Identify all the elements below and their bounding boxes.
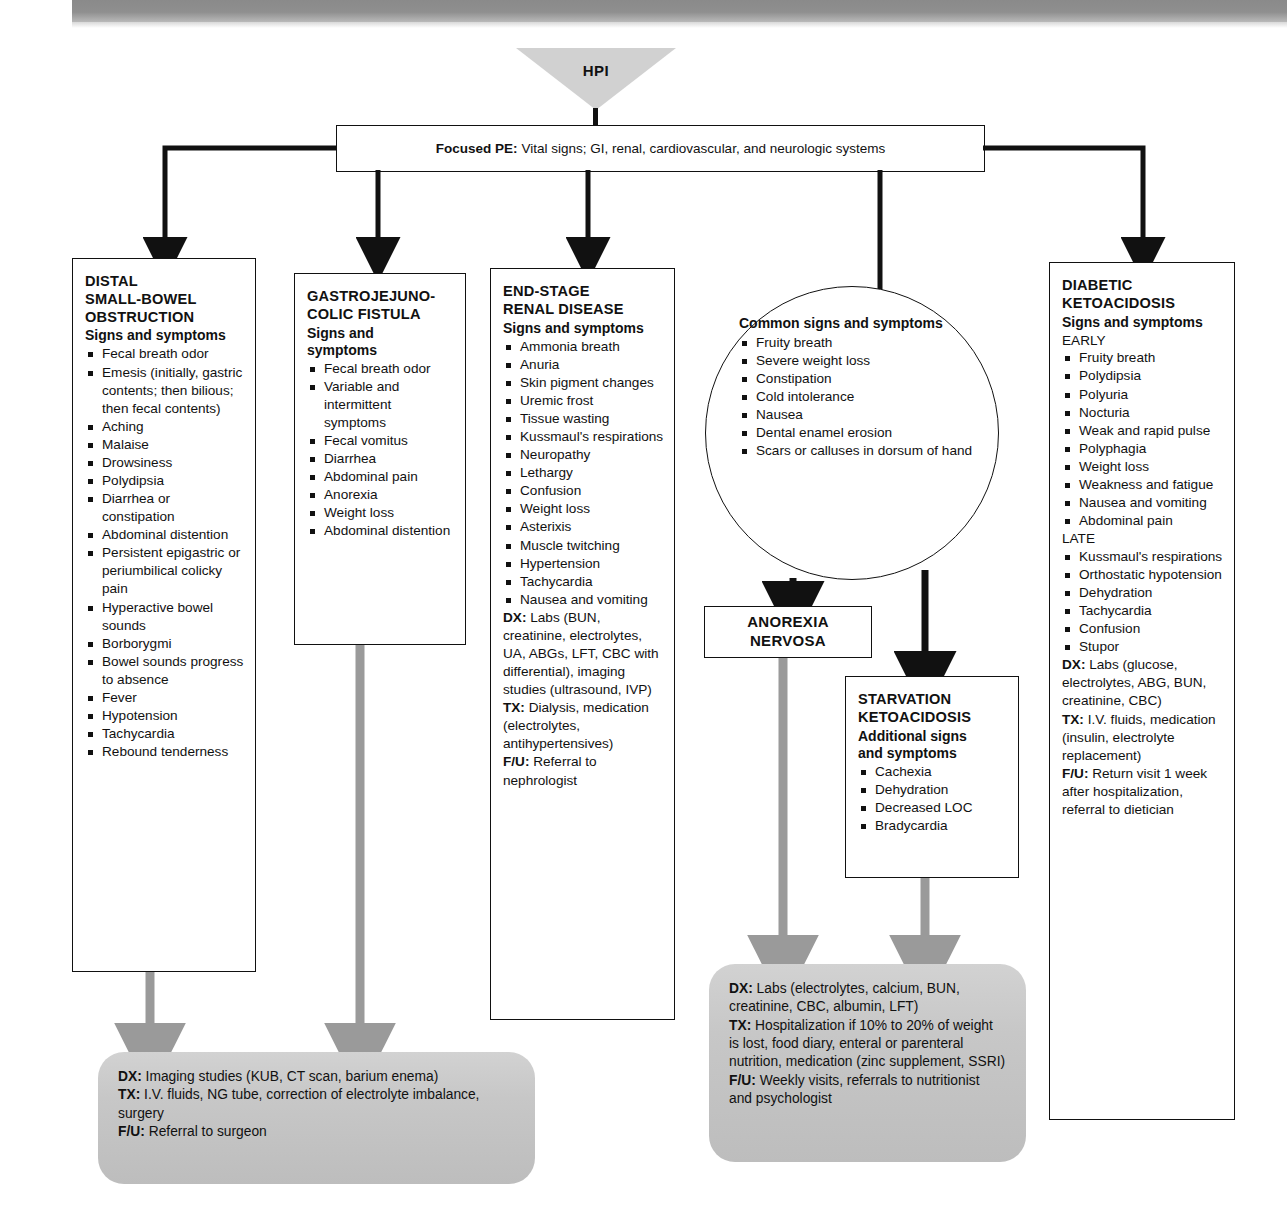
list-item: Abdominal pain	[307, 468, 455, 486]
list-item: Skin pigment changes	[503, 374, 664, 392]
list-item: Lethargy	[503, 464, 664, 482]
fu-label: F/U:	[503, 754, 529, 769]
list-item: Nocturia	[1062, 404, 1224, 422]
tx-line: TX: I.V. fluids, medication (insulin, el…	[1062, 711, 1224, 765]
tx-label: TX:	[118, 1087, 140, 1102]
list-item: Cold intolerance	[739, 388, 989, 406]
tx-text: I.V. fluids, NG tube, correction of elec…	[118, 1087, 479, 1120]
list-item: Variable and intermittent symptoms	[307, 378, 455, 432]
list-item: Fruity breath	[1062, 349, 1224, 367]
tx-label: TX:	[1062, 712, 1084, 727]
late-label: LATE	[1062, 530, 1224, 548]
box-anorexia-nervosa: ANOREXIA NERVOSA	[704, 606, 872, 658]
list-item: Muscle twitching	[503, 537, 664, 555]
list-item: Kussmaul's respirations	[1062, 548, 1224, 566]
funnel-triangle-icon	[516, 48, 676, 110]
fu-label: F/U:	[118, 1124, 145, 1139]
box-title: DIABETIC KETOACIDOSIS	[1062, 277, 1224, 313]
list-item: Weight loss	[307, 504, 455, 522]
list-item: Diarrhea or constipation	[85, 490, 245, 526]
dx-label: DX:	[729, 981, 753, 996]
list-item: Weak and rapid pulse	[1062, 422, 1224, 440]
list-item: Polydipsia	[1062, 367, 1224, 385]
list-item: Hypertension	[503, 555, 664, 573]
list-item: Tachycardia	[85, 725, 245, 743]
list-item: Polydipsia	[85, 472, 245, 490]
box-title: GASTROJEJUNO- COLIC FISTULA	[307, 288, 455, 324]
box-title: END-STAGE RENAL DISEASE	[503, 283, 664, 319]
list-item: Confusion	[1062, 620, 1224, 638]
symptom-list: Fruity breath Severe weight loss Constip…	[739, 334, 989, 461]
symptom-list: Fecal breath odor Emesis (initially, gas…	[85, 345, 245, 761]
list-item: Abdominal pain	[1062, 512, 1224, 530]
list-item: Fecal vomitus	[307, 432, 455, 450]
dx-label: DX:	[118, 1069, 142, 1084]
flowchart-page: HPI Focused PE: Vital signs; GI, renal, …	[0, 0, 1287, 1227]
list-item: Drowsiness	[85, 454, 245, 472]
box-gastrojejunocolic-fistula: GASTROJEJUNO- COLIC FISTULA Signs and sy…	[294, 273, 466, 645]
list-item: Weakness and fatigue	[1062, 476, 1224, 494]
list-item: Nausea	[739, 406, 989, 424]
list-item: Weight loss	[1062, 458, 1224, 476]
list-item: Nausea and vomiting	[503, 591, 664, 609]
box-title: STARVATION KETOACIDOSIS	[858, 691, 1008, 727]
list-item: Constipation	[739, 370, 989, 388]
fu-line: F/U: Referral to surgeon	[118, 1123, 515, 1141]
symptom-list: Fecal breath odor Variable and intermitt…	[307, 360, 455, 541]
list-item: Anuria	[503, 356, 664, 374]
tx-line: TX: I.V. fluids, NG tube, correction of …	[118, 1086, 515, 1123]
list-item: Bowel sounds progress to absence	[85, 653, 245, 689]
list-item: Uremic frost	[503, 392, 664, 410]
list-item: Abdominal distention	[85, 526, 245, 544]
list-item: Fruity breath	[739, 334, 989, 352]
dx-line: DX: Labs (glucose, electrolytes, ABG, BU…	[1062, 656, 1224, 710]
dx-text: Labs (BUN, creatinine, electrolytes, UA,…	[503, 610, 659, 697]
list-item: Nausea and vomiting	[1062, 494, 1224, 512]
fu-text: Weekly visits, referrals to nutritionist…	[729, 1073, 979, 1106]
late-symptom-list: Kussmaul's respirations Orthostatic hypo…	[1062, 548, 1224, 656]
hpi-label: HPI	[516, 62, 676, 79]
list-item: Polyphagia	[1062, 440, 1224, 458]
list-item: Malaise	[85, 436, 245, 454]
list-item: Diarrhea	[307, 450, 455, 468]
circle-common-signs-content: Common signs and symptoms Fruity breath …	[739, 314, 989, 460]
fu-line: F/U: Weekly visits, referrals to nutriti…	[729, 1072, 1006, 1109]
symptom-list: Cachexia Dehydration Decreased LOC Brady…	[858, 763, 1008, 835]
list-item: Asterixis	[503, 518, 664, 536]
list-item: Fever	[85, 689, 245, 707]
box-starvation-ketoacidosis: STARVATION KETOACIDOSIS Additional signs…	[845, 676, 1019, 878]
list-item: Polyuria	[1062, 386, 1224, 404]
focused-pe-box: Focused PE: Vital signs; GI, renal, card…	[336, 125, 985, 172]
list-item: Neuropathy	[503, 446, 664, 464]
fu-line: F/U: Return visit 1 week after hospitali…	[1062, 765, 1224, 819]
dx-label: DX:	[503, 610, 526, 625]
top-banner	[72, 0, 1287, 22]
focused-pe-label: Focused PE:	[436, 141, 518, 156]
list-item: Weight loss	[503, 500, 664, 518]
list-item: Tachycardia	[503, 573, 664, 591]
box-subhead: Additional signs and symptoms	[858, 728, 1008, 762]
list-item: Kussmaul's respirations	[503, 428, 664, 446]
box-end-stage-renal-disease: END-STAGE RENAL DISEASE Signs and sympto…	[490, 268, 675, 1020]
dx-line: DX: Labs (BUN, creatinine, electrolytes,…	[503, 609, 664, 699]
list-item: Fecal breath odor	[307, 360, 455, 378]
list-item: Persistent epigastric or periumbilical c…	[85, 544, 245, 598]
dx-line: DX: Imaging studies (KUB, CT scan, bariu…	[118, 1068, 515, 1086]
box-subhead: Signs and symptoms	[307, 325, 455, 359]
list-item: Bradycardia	[858, 817, 1008, 835]
dx-text: Labs (electrolytes, calcium, BUN, creati…	[729, 981, 960, 1014]
list-item: Rebound tenderness	[85, 743, 245, 761]
early-label: EARLY	[1062, 332, 1224, 350]
outcome-box-left: DX: Imaging studies (KUB, CT scan, bariu…	[98, 1052, 535, 1184]
list-item: Borborygmi	[85, 635, 245, 653]
box-subhead: Signs and symptoms	[85, 327, 245, 344]
list-item: Orthostatic hypotension	[1062, 566, 1224, 584]
list-item: Dehydration	[1062, 584, 1224, 602]
tx-text: I.V. fluids, medication (insulin, electr…	[1062, 712, 1216, 763]
box-subhead: Signs and symptoms	[503, 320, 664, 337]
list-item: Emesis (initially, gastric contents; the…	[85, 364, 245, 418]
tx-line: TX: Dialysis, medication (electrolytes, …	[503, 699, 664, 753]
list-item: Tissue wasting	[503, 410, 664, 428]
tx-text: Hospitalization if 10% to 20% of weight …	[729, 1018, 1005, 1070]
list-item: Scars or calluses in dorsum of hand	[739, 442, 989, 460]
